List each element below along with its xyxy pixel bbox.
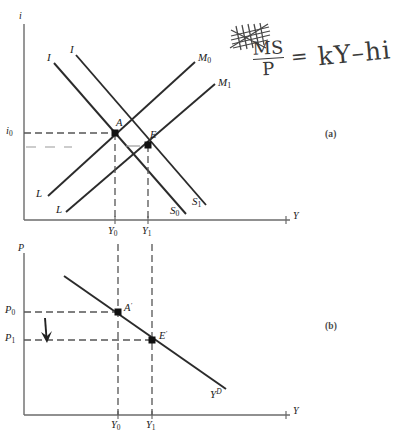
is-curve-0-end-label: S0 (170, 205, 179, 216)
panel-a-xtick-y1-sub: 1 (148, 229, 152, 238)
panel-b-ytick-p1: P1 (5, 333, 15, 344)
aggregate-demand-curve-label: YD (210, 389, 222, 400)
lm-curve-1-end-label: M1 (218, 77, 231, 88)
is-curve-0-label: I (47, 52, 51, 63)
point-a-prime-label: A′ (124, 303, 132, 314)
handwritten-numerator: MS (252, 38, 284, 57)
lm-curve-0-end-label: M0 (198, 52, 211, 63)
panel-a-guides (24, 133, 148, 220)
point-a-label: A (116, 118, 122, 129)
lm-curve-1-end-sub: 1 (227, 81, 231, 90)
panel-a-ytick-i0: i0 (6, 126, 13, 137)
panel-a-xtick-y0: Y0 (108, 226, 118, 237)
panel-b-x-axis-label: Y (293, 406, 299, 416)
figure-canvas: i Y i0 Y0 Y1 I I S0 S1 L L M0 M1 A E (a)… (0, 0, 397, 437)
panel-b-guides (24, 244, 152, 415)
is-curve-1-end-base: S (192, 195, 198, 207)
is-curve-1 (76, 55, 206, 205)
lm-curve-1-label: L (56, 204, 62, 215)
is-curve-1-end-label: S1 (192, 196, 201, 207)
panel-b-xtick-y0: Y0 (111, 420, 121, 431)
point-e-prime-mark: ′ (165, 329, 167, 337)
panel-b-ytick-p0-sub: 0 (11, 308, 15, 317)
handwritten-equals-sign: = (290, 43, 310, 69)
panel-b-caption: (b) (325, 322, 337, 332)
panel-a-caption: (a) (325, 130, 337, 140)
handwritten-fraction: MS P (252, 38, 284, 78)
panel-a-is-curves (54, 55, 206, 214)
panel-a-xtick-y0-sub: 0 (114, 229, 118, 238)
panel-a-xtick-y0-base: Y (108, 225, 114, 236)
handwritten-denominator: P (253, 59, 285, 78)
point-e-label: E (150, 130, 156, 141)
panel-b-xtick-y0-base: Y (111, 419, 117, 430)
handwritten-right-side: kY–hi (316, 35, 392, 71)
aggregate-demand-curve (64, 276, 226, 389)
panel-a-ytick-i0-sub: 0 (9, 129, 13, 138)
panel-b-ytick-p1-sub: 1 (11, 336, 15, 345)
point-a-marker (112, 130, 119, 137)
lm-curve-0-label: L (36, 188, 42, 199)
panel-b-axes (24, 253, 290, 419)
lm-curve-0-end-sub: 0 (207, 56, 211, 65)
panel-b-y-axis-label: P (18, 243, 24, 253)
is-curve-0 (54, 63, 186, 214)
is-curve-1-end-sub: 1 (198, 200, 202, 209)
panel-a-x-axis-label: Y (293, 211, 299, 221)
lm-curve-0-end-base: M (198, 51, 207, 63)
panel-a-axes (24, 24, 290, 224)
point-e-prime-label: E′ (159, 331, 167, 342)
is-curve-0-end-base: S (170, 204, 176, 216)
panel-a-xtick-y1-base: Y (142, 225, 148, 236)
is-curve-0-end-sub: 0 (176, 209, 180, 218)
panel-b-xtick-y0-sub: 0 (117, 423, 121, 432)
panel-b-xtick-y1-base: Y (146, 419, 152, 430)
panel-b-ytick-p0: P0 (5, 305, 15, 316)
lm-curve-1-end-base: M (218, 76, 227, 88)
point-e-marker (145, 142, 152, 149)
price-decrease-arrow-icon (41, 318, 52, 343)
point-a-prime-marker (115, 309, 122, 316)
panel-a-y-axis-label: i (19, 11, 22, 21)
panel-b-xtick-y1: Y1 (146, 420, 156, 431)
panel-b-xtick-y1-sub: 1 (152, 423, 156, 432)
panel-a-xtick-y1: Y1 (142, 226, 152, 237)
point-e-prime-marker (149, 337, 156, 344)
point-a-prime-mark: ′ (130, 301, 132, 309)
is-curve-1-label: I (70, 44, 74, 55)
aggregate-demand-curve-label-sup: D (216, 387, 221, 396)
